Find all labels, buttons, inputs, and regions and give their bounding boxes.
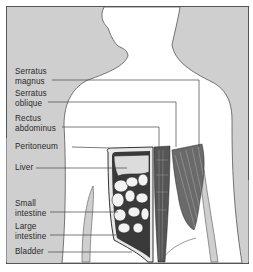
label-line: Large [15,222,46,232]
label-line: oblique [15,99,47,109]
label-serratus-magnus: Serratus magnus [15,67,47,86]
label-small-intestine: Small intestine [15,199,46,218]
label-peritoneum: Peritoneum [15,142,58,152]
label-line: Serratus [15,89,47,99]
label-line: Liver [15,163,33,173]
label-line: magnus [15,77,47,87]
label-line: intestine [15,209,46,219]
liver [114,155,149,176]
label-line: intestine [15,232,46,242]
label-line: Small [15,199,46,209]
label-rectus-abdominus: Rectus abdominus [15,114,56,133]
label-large-intestine: Large intestine [15,222,46,241]
label-liver: Liver [15,163,33,173]
label-line: Peritoneum [15,142,58,152]
label-line: abdominus [15,124,56,134]
label-bladder: Bladder [15,247,44,257]
label-line: Bladder [15,247,44,257]
label-line: Serratus [15,67,47,77]
label-line: Rectus [15,114,56,124]
label-serratus-oblique: Serratus oblique [15,89,47,108]
